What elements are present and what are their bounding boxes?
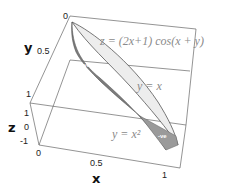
- z-tick-neg1: -1: [20, 136, 28, 146]
- z-tick-1: 1: [24, 108, 29, 118]
- x-tick-1: 1: [162, 170, 167, 180]
- surface-plot: +ve -ve z = (2x+1) cos(x + y) y = x y = …: [0, 0, 226, 196]
- z-tick-0: 0: [24, 122, 29, 132]
- x-axis-label: x: [92, 171, 101, 186]
- x-tick-0-5: 0.5: [90, 158, 103, 168]
- negative-region-label: -ve: [158, 133, 167, 139]
- x-tick-0: 0: [36, 148, 41, 158]
- parabola-equation: y = x²: [111, 127, 141, 141]
- z-axis-label: z: [8, 120, 16, 135]
- y-tick-0-5: 0.5: [37, 46, 50, 56]
- positive-region-label: +ve: [80, 62, 91, 68]
- line-equation: y = x: [136, 79, 162, 93]
- surface-equation: z = (2x+1) cos(x + y): [99, 34, 204, 48]
- y-tick-0: 0: [63, 11, 68, 21]
- y-tick-1: 1: [26, 89, 31, 99]
- y-axis-label: y: [24, 40, 33, 55]
